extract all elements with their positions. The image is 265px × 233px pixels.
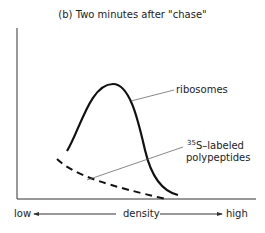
x-axis-label: density — [123, 208, 160, 219]
ribosomes-leader — [131, 90, 174, 101]
isotope-sup: 35 — [187, 139, 196, 147]
plot-area — [0, 0, 265, 233]
x-low-label: low — [14, 208, 31, 219]
x-high-label: high — [226, 208, 248, 219]
ribosomes-curve — [67, 84, 178, 195]
label-polypeptides: polypeptides — [186, 152, 250, 163]
label-ribosomes: ribosomes — [176, 84, 228, 95]
label-labeled-text: S–labeled — [196, 140, 244, 151]
left-arrow-icon — [33, 212, 39, 216]
label-labeled: 35S–labeled — [187, 139, 244, 151]
right-arrow-icon — [217, 212, 223, 216]
polypeptides-leader — [87, 147, 183, 180]
